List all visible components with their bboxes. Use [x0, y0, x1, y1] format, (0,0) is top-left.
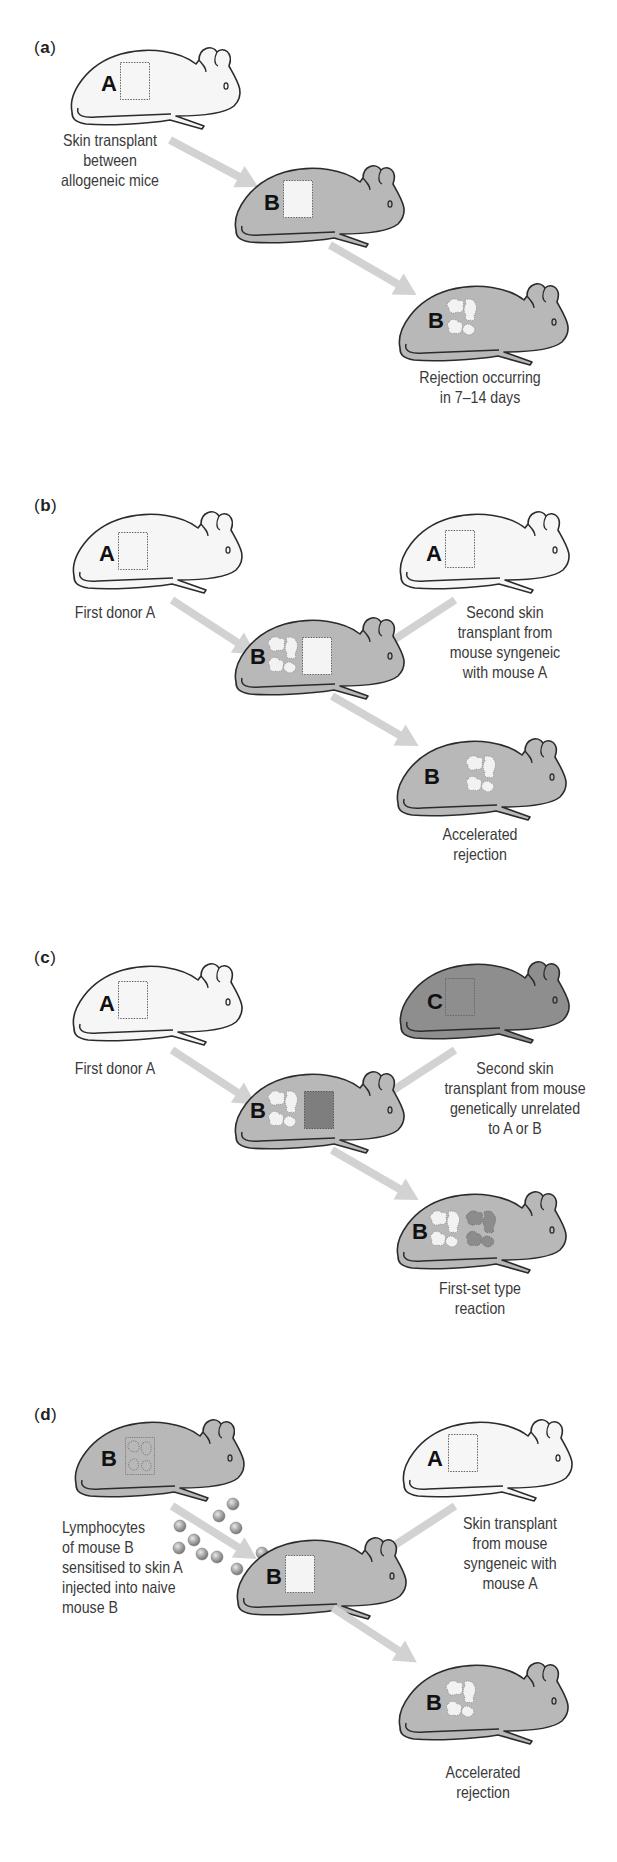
mouse-a-first-donor: A: [73, 512, 242, 593]
arrow-icon: [326, 1598, 423, 1673]
panel-label-d: (d): [34, 1405, 57, 1425]
lymphocyte-icon: [227, 1498, 239, 1510]
mouse-letter: B: [266, 1564, 282, 1589]
mouse-letter: C: [427, 989, 443, 1014]
caption-lymphocytes-sensitised: Lymphocytes of mouse B sensitised to ski…: [62, 1517, 208, 1617]
lymphocyte-icon: [231, 1563, 243, 1575]
caption-first-donor-a: First donor A: [51, 1058, 180, 1078]
caption-rejection-occurring: Rejection occurring in 7–14 days: [407, 367, 553, 407]
mouse-letter: B: [428, 308, 444, 333]
transplant-rejection-figure: A B B A A: [0, 0, 617, 1862]
mouse-letter: A: [101, 71, 117, 96]
mouse-b-recipient: B: [235, 1072, 404, 1153]
mouse-letter: B: [412, 1219, 428, 1244]
mouse-b-outcome: B: [397, 1192, 566, 1273]
mouse-letter: B: [426, 1690, 442, 1715]
mouse-letter: A: [99, 541, 115, 566]
caption-accelerated-rejection: Accelerated rejection: [419, 1762, 548, 1802]
panel-label-c: (c): [34, 948, 56, 968]
lymphocyte-icon: [211, 1551, 223, 1563]
mouse-b-recipient: B: [235, 618, 404, 699]
mouse-letter: B: [424, 764, 440, 789]
arrow-icon: [164, 129, 264, 197]
mouse-letter: A: [99, 991, 115, 1016]
mouse-a-skin-donor: A: [403, 1420, 572, 1501]
mouse-letter: B: [264, 190, 280, 215]
mouse-b-outcome: B: [399, 284, 568, 365]
arrow-icon: [326, 1140, 425, 1211]
caption-second-skin-unrelated: Second skin transplant from mouse geneti…: [433, 1058, 596, 1138]
mouse-letter: B: [250, 1098, 266, 1123]
panel-label-b: (b): [34, 496, 57, 516]
mouse-b-outcome: B: [399, 1663, 568, 1744]
caption-skin-transplant-syngeneic: Skin transplant from mouse syngeneic wit…: [446, 1513, 575, 1593]
mouse-c-second-donor: C: [400, 962, 569, 1043]
lymphocyte-icon: [213, 1510, 225, 1522]
mouse-a-second-donor: A: [400, 512, 569, 593]
mouse-letter: A: [426, 541, 442, 566]
mouse-letter: B: [101, 1446, 117, 1471]
arrow-icon: [324, 235, 423, 306]
mouse-letter: A: [427, 1446, 443, 1471]
panel-label-a: (a): [34, 38, 56, 58]
mouse-letter: B: [250, 644, 266, 669]
mouse-b-sensitised-donor: B: [75, 1420, 244, 1501]
caption-second-skin-syngeneic: Second skin transplant from mouse syngen…: [441, 602, 570, 682]
mouse-a-donor: A: [71, 48, 240, 129]
caption-accelerated-rejection: Accelerated rejection: [416, 824, 545, 864]
mouse-a-first-donor: A: [73, 964, 242, 1045]
caption-skin-transplant-allogeneic: Skin transplant between allogeneic mice: [41, 130, 179, 190]
caption-first-set-reaction: First-set type reaction: [416, 1278, 545, 1318]
caption-first-donor-a: First donor A: [51, 602, 180, 622]
arrow-icon: [326, 686, 425, 757]
mouse-b-recipient: B: [235, 166, 404, 247]
mouse-b-outcome: B: [397, 739, 566, 820]
panel-a: A B B: [71, 48, 568, 365]
lymphocyte-icon: [230, 1522, 242, 1534]
